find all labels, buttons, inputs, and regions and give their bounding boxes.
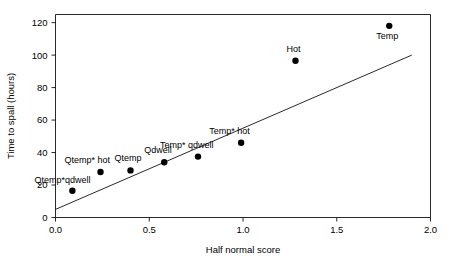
- data-point-label: Temp* qdwell: [160, 140, 214, 150]
- plot-frame: [56, 15, 431, 218]
- y-tick-label: 100: [32, 50, 48, 61]
- data-point: [195, 153, 201, 159]
- data-point: [161, 159, 167, 165]
- x-tick-label: 0.0: [49, 224, 62, 235]
- data-point: [238, 140, 244, 146]
- data-point-label: Temp: [376, 31, 398, 41]
- y-tick-label: 80: [37, 82, 48, 93]
- y-tick-label: 120: [32, 17, 48, 28]
- chart-canvas: 020406080100120 0.00.51.01.52.0 Qtemp*qd…: [0, 0, 449, 260]
- y-tick-label: 60: [37, 114, 48, 125]
- x-tick-label: 2.0: [424, 224, 437, 235]
- data-point: [292, 58, 298, 64]
- x-tick-label: 1.0: [236, 224, 249, 235]
- data-point-label: Hot: [287, 44, 302, 54]
- x-axis-title: Half normal score: [206, 244, 280, 255]
- half-normal-plot-figure: 020406080100120 0.00.51.01.52.0 Qtemp*qd…: [0, 0, 449, 260]
- y-tick-label: 0: [42, 212, 47, 223]
- data-point: [97, 169, 103, 175]
- data-point-label: Qtemp: [115, 153, 142, 163]
- data-points-group: Qtemp*qdwellQtemp* hotQtempQdwellTemp* q…: [34, 23, 398, 194]
- y-axis-ticks: 020406080100120: [32, 17, 56, 223]
- data-point: [69, 188, 75, 194]
- y-axis-title: Time to spall (hours): [5, 73, 16, 159]
- data-point-label: Temp* hot: [209, 126, 250, 136]
- data-point-label: Qtemp*qdwell: [34, 175, 90, 185]
- data-point: [127, 167, 133, 173]
- x-tick-label: 1.5: [330, 224, 343, 235]
- y-tick-label: 40: [37, 147, 48, 158]
- data-point: [386, 23, 392, 29]
- x-tick-label: 0.5: [143, 224, 156, 235]
- x-axis-ticks: 0.00.51.01.52.0: [49, 218, 437, 235]
- data-point-label: Qtemp* hot: [65, 155, 111, 165]
